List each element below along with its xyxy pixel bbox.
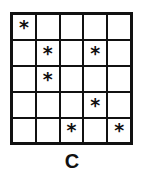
asterisk-icon: *	[90, 44, 100, 63]
grid-cell-r5c5: *	[107, 118, 131, 144]
asterisk-grid-figure: * * * *	[0, 0, 144, 179]
grid-cell-r4c2	[36, 92, 60, 118]
grid-cell-r1c4	[83, 14, 107, 40]
grid-cell-r1c2	[36, 14, 60, 40]
grid-cell-r4c5	[107, 92, 131, 118]
grid-cell-r1c5	[107, 14, 131, 40]
grid-cell-r3c2: *	[36, 66, 60, 92]
grid-cell-r3c5	[107, 66, 131, 92]
table-row: *	[12, 92, 132, 118]
grid-cell-r2c5	[107, 40, 131, 66]
table-row: * *	[12, 40, 132, 66]
asterisk-icon: *	[43, 44, 53, 63]
asterisk-icon: *	[114, 121, 124, 140]
grid-cell-r5c4	[83, 118, 107, 144]
grid-cell-r5c2	[36, 118, 60, 144]
grid-cell-r2c1	[12, 40, 36, 66]
grid-cell-r2c3	[60, 40, 84, 66]
grid-cell-r5c1	[12, 118, 36, 144]
grid-cell-r3c4	[83, 66, 107, 92]
grid-cell-r3c1	[12, 66, 36, 92]
grid-cell-r3c3	[60, 66, 84, 92]
grid-cell-r4c3	[60, 92, 84, 118]
table-row: *	[12, 14, 132, 40]
grid-cell-r4c4: *	[83, 92, 107, 118]
grid-cell-r2c2: *	[36, 40, 60, 66]
grid-container: * * * *	[10, 12, 133, 145]
asterisk-icon: *	[19, 18, 29, 37]
asterisk-icon: *	[67, 121, 77, 140]
grid-cell-r2c4: *	[83, 40, 107, 66]
asterisk-icon: *	[90, 96, 100, 115]
asterisk-grid: * * * *	[10, 12, 133, 145]
grid-cell-r1c1: *	[12, 14, 36, 40]
table-row: * *	[12, 118, 132, 144]
table-row: *	[12, 66, 132, 92]
grid-cell-r5c3: *	[60, 118, 84, 144]
figure-caption: C	[0, 150, 144, 173]
grid-cell-r1c3	[60, 14, 84, 40]
grid-cell-r4c1	[12, 92, 36, 118]
asterisk-icon: *	[43, 70, 53, 89]
